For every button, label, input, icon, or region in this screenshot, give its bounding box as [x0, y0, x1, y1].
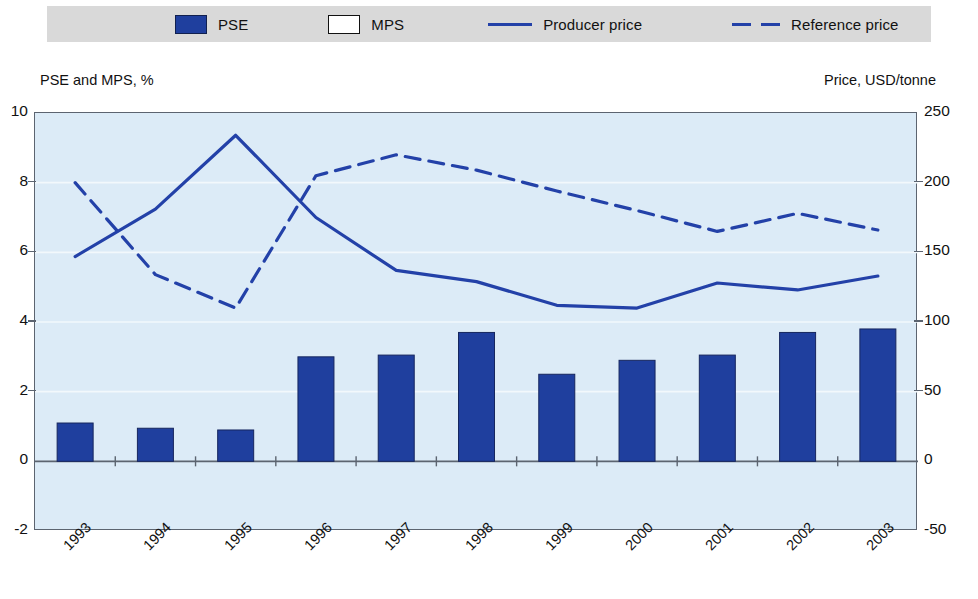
- legend-item-producer-price: Producer price: [488, 16, 642, 33]
- bar-pse: [57, 423, 93, 461]
- empty-square-swatch-icon: [328, 15, 360, 34]
- left-axis-tick: 6: [2, 241, 28, 259]
- bar-pse: [298, 357, 334, 462]
- left-axis-caption: PSE and MPS, %: [40, 72, 154, 88]
- legend-label-mps: MPS: [371, 16, 404, 33]
- bar-pse: [699, 355, 735, 461]
- right-axis-tick: 200: [924, 172, 950, 190]
- legend-label-reference-price: Reference price: [791, 16, 898, 33]
- legend-item-mps: MPS: [328, 15, 404, 34]
- right-axis-tick-mark: [914, 181, 923, 183]
- left-axis-tick: -2: [2, 520, 28, 538]
- right-axis-tick-mark: [914, 320, 923, 322]
- dashed-line-swatch-icon: [732, 23, 780, 26]
- left-axis-tick: 8: [2, 172, 28, 190]
- left-axis-tick: 0: [2, 450, 28, 468]
- right-axis-tick: 150: [924, 241, 950, 259]
- left-axis-tick-labels: 1086420-2: [0, 112, 28, 530]
- right-axis-tick: -50: [924, 520, 946, 538]
- left-axis-tick-mark: [28, 251, 36, 253]
- right-axis-caption: Price, USD/tonne: [824, 72, 936, 88]
- left-axis-tick: 2: [2, 381, 28, 399]
- legend-item-pse: PSE: [175, 15, 248, 34]
- right-axis-tick: 0: [924, 450, 933, 468]
- x-axis-tick-labels: 1993199419951996199719981999200020012002…: [34, 534, 917, 596]
- bar-pse: [619, 360, 655, 461]
- filled-square-swatch-icon: [175, 15, 207, 34]
- right-axis-tick: 50: [924, 381, 941, 399]
- left-axis-tick-mark: [28, 390, 36, 392]
- right-axis-tick: 100: [924, 311, 950, 329]
- plot-area: [34, 112, 917, 530]
- legend-item-reference-price: Reference price: [732, 16, 898, 33]
- right-axis-tick: 250: [924, 102, 950, 120]
- bar-pse: [218, 430, 254, 461]
- left-axis-tick: 10: [2, 102, 28, 120]
- chart-legend: PSE MPS Producer price Reference price: [47, 6, 931, 42]
- bar-pse: [459, 332, 495, 461]
- right-axis-tick-mark: [914, 251, 923, 253]
- bar-pse: [137, 428, 173, 461]
- left-axis-tick-mark: [28, 320, 36, 322]
- left-axis-tick: 4: [2, 311, 28, 329]
- bar-pse: [860, 329, 896, 461]
- right-axis-tick-mark: [914, 390, 923, 392]
- bar-pse: [378, 355, 414, 461]
- solid-line-swatch-icon: [488, 23, 532, 26]
- left-axis-tick-mark: [28, 181, 36, 183]
- bar-pse: [539, 374, 575, 461]
- right-axis-tick-labels: 250200150100500-50: [924, 112, 978, 530]
- legend-label-producer-price: Producer price: [543, 16, 642, 33]
- chart-canvas: [35, 113, 918, 531]
- legend-label-pse: PSE: [218, 16, 248, 33]
- bar-pse: [780, 332, 816, 461]
